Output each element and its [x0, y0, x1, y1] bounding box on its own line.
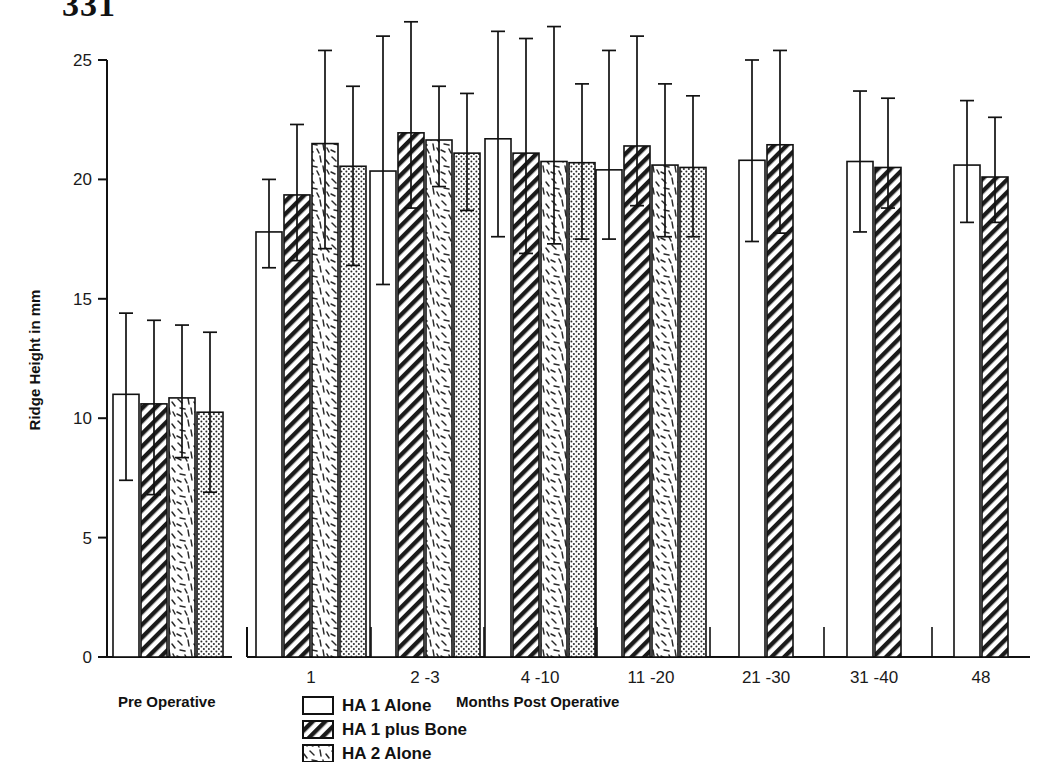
bar-group-2 — [370, 22, 480, 657]
legend-swatch-2 — [303, 745, 333, 762]
figure-bar-chart: 0510152025Ridge Height in mm12 -34 -1011… — [0, 0, 1042, 762]
x-axis-title: Months Post Operative — [456, 693, 619, 710]
bar-open-g4[interactable] — [596, 170, 622, 657]
x-tick-label-7: 48 — [972, 668, 991, 687]
legend-label-2: HA 2 Alone — [342, 744, 431, 762]
legend-swatch-1 — [303, 721, 333, 738]
bar-hatch-g1[interactable] — [284, 195, 310, 657]
y-tick-label-25: 25 — [73, 51, 92, 70]
legend-swatch-0 — [303, 697, 333, 714]
preoperative-label: Pre Operative — [118, 693, 216, 710]
x-tick-label-3: 4 -10 — [521, 668, 560, 687]
bar-group-0 — [113, 313, 223, 657]
bar-group-7 — [954, 101, 1008, 657]
y-tick-label-10: 10 — [73, 409, 92, 428]
bar-open-g7[interactable] — [954, 165, 980, 657]
bar-hatch-g4[interactable] — [624, 146, 650, 657]
bar-dash-g4[interactable] — [652, 165, 678, 657]
bar-hatch-g2[interactable] — [398, 133, 424, 657]
chart-svg: 0510152025Ridge Height in mm12 -34 -1011… — [0, 0, 1042, 762]
y-tick-label-15: 15 — [73, 290, 92, 309]
x-tick-label-2: 2 -3 — [410, 668, 439, 687]
bar-group-4 — [596, 36, 706, 657]
bar-group-5 — [739, 50, 793, 657]
bar-dots-g4[interactable] — [680, 167, 706, 657]
x-tick-label-6: 31 -40 — [850, 668, 898, 687]
legend-label-0: HA 1 Alone — [342, 696, 431, 715]
chart-plot-area: 0510152025Ridge Height in mm12 -34 -1011… — [26, 22, 1030, 762]
y-tick-label-5: 5 — [83, 529, 92, 548]
bar-dash-g2[interactable] — [426, 140, 452, 657]
bar-hatch-g6[interactable] — [875, 167, 901, 657]
bar-hatch-g7[interactable] — [982, 177, 1008, 657]
x-tick-label-4: 11 -20 — [628, 668, 675, 687]
bar-group-6 — [847, 91, 901, 657]
legend-label-1: HA 1 plus Bone — [342, 720, 467, 739]
y-tick-label-0: 0 — [83, 648, 92, 667]
bar-group-3 — [485, 27, 595, 657]
bar-open-g6[interactable] — [847, 161, 873, 657]
bar-group-1 — [256, 50, 366, 657]
bar-dots-g2[interactable] — [454, 153, 480, 657]
y-tick-label-20: 20 — [73, 170, 92, 189]
x-tick-label-5: 21 -30 — [742, 668, 790, 687]
y-axis-title: Ridge Height in mm — [26, 290, 43, 431]
x-tick-label-1: 1 — [306, 668, 315, 687]
bar-open-g1[interactable] — [256, 232, 282, 657]
